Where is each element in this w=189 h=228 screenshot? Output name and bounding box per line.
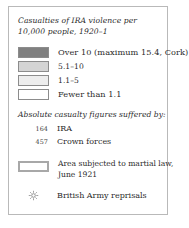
swatch-label-1-1-to-5: 1.1–5 — [58, 76, 79, 85]
legend-class-row: Fewer than 1.1 — [18, 87, 159, 101]
figure-label-crown-forces: Crown forces — [57, 137, 111, 146]
swatch-over-10 — [18, 47, 49, 58]
casualty-rate-swatch-list: Over 10 (maximum 15.4, Cork) 5.1–10 1.1–… — [18, 45, 159, 101]
absolute-figures-heading: Absolute casualty figures suffered by: — [18, 110, 159, 119]
legend-title-line-2: 10,000 people, 1920–1 — [18, 27, 159, 38]
swatch-5-1-to-10 — [18, 61, 49, 72]
british-army-reprisals-row: British Army reprisals — [18, 190, 159, 201]
british-army-reprisals-label: British Army reprisals — [57, 191, 147, 200]
swatch-label-fewer-than-1-1: Fewer than 1.1 — [58, 89, 122, 99]
swatch-1-1-to-5 — [18, 75, 49, 86]
legend-class-row: Over 10 (maximum 15.4, Cork) — [18, 45, 159, 59]
martial-law-label-line-2: June 1921 — [58, 170, 173, 181]
map-legend-panel: Casualties of IRA violence per 10,000 pe… — [8, 6, 168, 215]
martial-law-label: Area subjected to martial law, June 1921 — [58, 159, 173, 180]
swatch-label-5-1-to-10: 5.1–10 — [58, 62, 84, 71]
figure-value-ira: 164 — [18, 125, 48, 133]
figure-value-crown-forces: 457 — [18, 138, 48, 146]
swatch-martial-law-area — [18, 161, 49, 172]
martial-law-label-line-1: Area subjected to martial law, — [58, 159, 173, 170]
figure-label-ira: IRA — [57, 124, 72, 133]
legend-class-row: 1.1–5 — [18, 73, 159, 87]
figure-row-crown-forces: 457 Crown forces — [18, 137, 159, 150]
swatch-label-over-10: Over 10 (maximum 15.4, Cork) — [58, 47, 179, 57]
starburst-marker-icon — [18, 190, 48, 201]
legend-title: Casualties of IRA violence per 10,000 pe… — [18, 16, 159, 37]
swatch-fewer-than-1-1 — [18, 89, 49, 100]
legend-class-row: 5.1–10 — [18, 59, 159, 73]
legend-title-line-1: Casualties of IRA violence per — [18, 16, 159, 27]
figure-row-ira: 164 IRA — [18, 124, 159, 137]
absolute-figures-list: 164 IRA 457 Crown forces — [18, 124, 159, 150]
martial-law-row: Area subjected to martial law, June 1921 — [18, 159, 159, 180]
